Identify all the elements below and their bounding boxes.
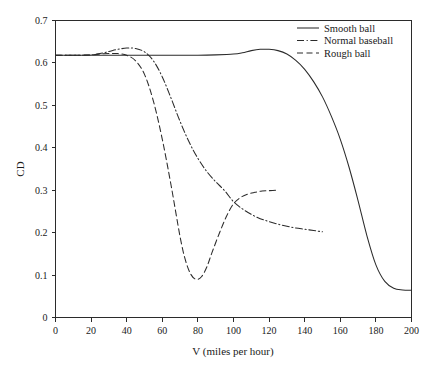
x-tick-label: 0	[53, 325, 58, 336]
series-line-normal-baseball	[56, 48, 323, 232]
legend-label-rough-ball: Rough ball	[324, 48, 370, 59]
y-tick-label: 0.6	[35, 57, 48, 68]
y-axis-tick-labels: 00.10.20.30.40.50.60.7	[35, 15, 48, 323]
x-axis-title: V (miles per hour)	[192, 345, 274, 358]
axis-ticks	[52, 21, 412, 322]
legend-label-smooth-ball: Smooth ball	[324, 23, 375, 34]
x-tick-label: 160	[333, 325, 348, 336]
series-line-rough-ball	[56, 53, 279, 279]
x-tick-label: 200	[404, 325, 419, 336]
y-tick-label: 0.4	[35, 142, 48, 153]
y-tick-label: 0.2	[35, 227, 48, 238]
x-tick-label: 180	[368, 325, 383, 336]
x-tick-label: 140	[297, 325, 312, 336]
y-tick-label: 0.3	[35, 185, 48, 196]
y-tick-label: 0	[43, 312, 48, 323]
plot-frame	[56, 21, 412, 318]
y-axis-title: CD	[14, 161, 26, 176]
x-tick-label: 60	[157, 325, 167, 336]
chart-container: 020406080100120140160180200 00.10.20.30.…	[0, 0, 432, 371]
series-line-smooth-ball	[56, 49, 412, 290]
chart-plot-area: 020406080100120140160180200 00.10.20.30.…	[0, 0, 432, 371]
x-tick-label: 80	[193, 325, 203, 336]
y-tick-label: 0.5	[35, 100, 48, 111]
x-tick-label: 40	[122, 325, 132, 336]
series-lines	[56, 48, 412, 290]
y-tick-label: 0.7	[35, 15, 48, 26]
x-tick-label: 20	[86, 325, 96, 336]
y-tick-label: 0.1	[35, 270, 48, 281]
x-axis-tick-labels: 020406080100120140160180200	[53, 325, 419, 336]
x-tick-label: 100	[226, 325, 241, 336]
legend-label-normal-baseball: Normal baseball	[324, 35, 393, 46]
x-tick-label: 120	[262, 325, 277, 336]
chart-legend: Smooth ballNormal baseballRough ball	[297, 23, 393, 59]
